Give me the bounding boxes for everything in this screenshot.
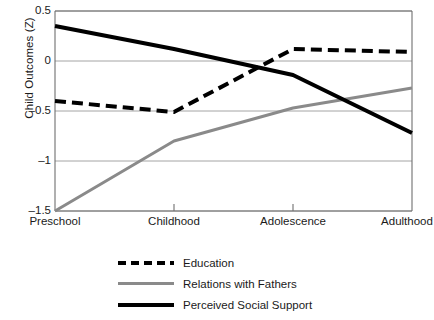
legend-item-education: Education <box>118 252 418 273</box>
x-tick-label-adulthood: Adulthood <box>381 215 433 227</box>
x-tick-label-childhood: Childhood <box>148 215 200 227</box>
dashed-black-line-icon <box>118 257 174 269</box>
legend-item-label: Education <box>183 257 234 269</box>
legend-item-relations-with-fathers: Relations with Fathers <box>118 273 418 294</box>
y-tick-label: –0.5 <box>5 105 51 117</box>
legend-item-perceived-social-support: Perceived Social Support <box>118 294 418 315</box>
y-tick-label: 0 <box>5 55 51 67</box>
legend-item-label: Perceived Social Support <box>183 299 312 311</box>
y-tick-label: –1 <box>5 155 51 167</box>
plot-area <box>0 0 434 240</box>
y-tick-label: 0.5 <box>5 5 51 17</box>
x-tick-label-preschool: Preschool <box>29 215 80 227</box>
solid-gray-line-icon <box>118 278 174 290</box>
legend-item-label: Relations with Fathers <box>183 278 297 290</box>
y-axis-tick-labels: 0.5 0 –0.5 –1 –1.5 <box>3 0 51 320</box>
chart-figure: Child Outcomes (Z) 0.5 0 –0.5 –1 –1.5 Pr… <box>0 0 434 320</box>
chart-legend: Education Relations with Fathers Perceiv… <box>118 252 418 315</box>
x-tick-label-adolescence: Adolescence <box>260 215 326 227</box>
solid-black-line-icon <box>118 299 174 311</box>
series-line-education <box>55 49 412 112</box>
